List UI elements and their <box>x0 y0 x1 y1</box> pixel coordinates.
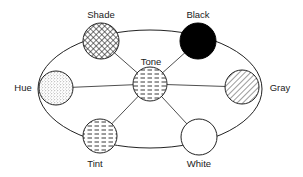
node-shade: Shade <box>83 9 119 59</box>
label-hue: Hue <box>14 82 31 93</box>
stipple-circle-icon <box>39 71 73 105</box>
white-circle-icon <box>181 119 217 155</box>
node-white: White <box>181 119 217 169</box>
label-tint: Tint <box>87 158 103 169</box>
dashed-circle-icon <box>133 67 167 101</box>
label-gray: Gray <box>270 82 291 93</box>
node-tint: Tint <box>83 119 117 169</box>
node-tone: Tone <box>133 56 167 101</box>
label-black: Black <box>186 9 209 20</box>
label-shade: Shade <box>87 9 114 20</box>
label-white: White <box>187 158 211 169</box>
diagonal-hatch-circle-icon <box>225 70 259 104</box>
label-tone: Tone <box>141 56 162 67</box>
crosshatch-circle-icon <box>83 23 119 59</box>
dashed-circle-icon <box>83 119 117 153</box>
solid-black-circle-icon <box>180 23 216 59</box>
color-wheel-diagram: Shade Black Hue Tone Gray Tint White <box>0 0 303 177</box>
node-black: Black <box>180 9 216 59</box>
node-hue: Hue <box>14 71 73 105</box>
node-gray: Gray <box>225 70 291 104</box>
